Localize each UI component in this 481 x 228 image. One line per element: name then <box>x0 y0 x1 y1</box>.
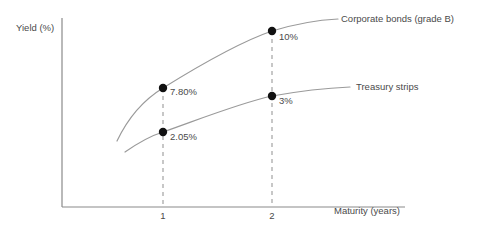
series-label-corporate-bonds: Corporate bonds (grade B) <box>341 13 454 24</box>
series-label-treasury-strips: Treasury strips <box>356 81 419 92</box>
yield-curve-chart: 7.80% 10% 2.05% 3% Corporate bonds (grad… <box>0 0 481 228</box>
data-label-treasury-year-2: 3% <box>279 95 293 106</box>
data-label-corporate-year-1: 7.80% <box>170 86 197 97</box>
x-tick-label-2: 2 <box>269 210 274 221</box>
data-point-corporate-year-1 <box>159 84 167 92</box>
data-label-treasury-year-1: 2.05% <box>170 131 197 142</box>
y-axis-title: Yield (%) <box>16 22 54 33</box>
data-point-treasury-year-2 <box>268 92 276 100</box>
data-point-treasury-year-1 <box>159 128 167 136</box>
corporate-bonds-curve <box>117 19 338 141</box>
x-tick-label-1: 1 <box>160 210 165 221</box>
x-axis-title: Maturity (years) <box>334 205 400 216</box>
data-point-corporate-year-2 <box>268 27 276 35</box>
data-label-corporate-year-2: 10% <box>279 31 299 42</box>
treasury-strips-curve <box>125 87 350 152</box>
chart-canvas: 7.80% 10% 2.05% 3% Corporate bonds (grad… <box>0 0 481 228</box>
